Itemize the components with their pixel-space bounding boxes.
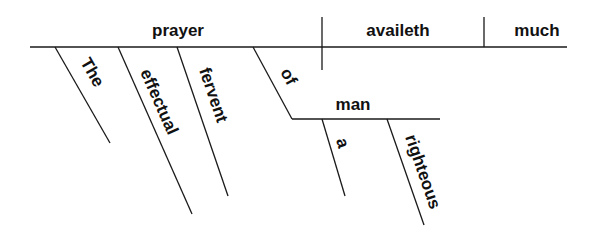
preposition-word-of: of (276, 65, 301, 88)
prepositional-object-word: man (336, 95, 371, 114)
modifier-word-righteous: righteous (401, 132, 444, 211)
modifier-line-a (322, 119, 345, 196)
modifier-word-a: a (332, 136, 353, 151)
adverb-word: much (514, 21, 559, 40)
modifier-word-the: The (77, 55, 109, 91)
sentence-diagram: prayer availeth much man The effectual f… (0, 0, 597, 242)
verb-word: availeth (366, 21, 429, 40)
modifier-word-effectual: effectual (136, 66, 182, 138)
subject-word: prayer (152, 21, 204, 40)
